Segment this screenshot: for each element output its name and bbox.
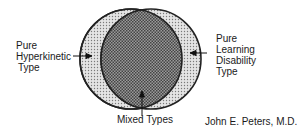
author-credit: John E. Peters, M.D.	[205, 116, 297, 127]
label-mixed-types: Mixed Types	[117, 114, 173, 125]
label-learning-disability: Pure Learning Disability Type	[216, 33, 256, 77]
label-hyperkinetic: Pure Hyperkinetic Type	[16, 40, 71, 73]
